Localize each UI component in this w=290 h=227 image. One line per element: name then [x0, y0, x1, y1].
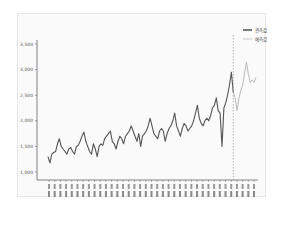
x-tick-label	[219, 184, 221, 189]
x-tick-label	[156, 184, 158, 189]
y-tick-label: 1,000	[20, 170, 33, 175]
x-tick-label	[76, 184, 78, 189]
x-tick-label	[247, 191, 249, 197]
forecast-line	[233, 62, 256, 111]
x-tick-label	[99, 184, 101, 189]
legend-label: 예측값	[255, 36, 267, 43]
x-tick-label	[156, 191, 158, 197]
x-tick-label	[207, 184, 209, 189]
x-tick-label	[105, 191, 107, 197]
y-tick-label: 3,000	[20, 67, 33, 72]
x-tick-label	[162, 184, 164, 189]
y-tick-label: 2,000	[20, 118, 33, 123]
x-tick-label	[236, 184, 238, 189]
x-tick-label	[179, 184, 181, 189]
x-tick-label	[94, 184, 96, 189]
plot-lines	[48, 35, 256, 180]
y-tick-label: 1,500	[20, 144, 33, 149]
x-tick-label	[122, 184, 124, 189]
x-tick-label	[99, 191, 101, 197]
observed-line	[48, 72, 233, 163]
x-tick-label	[59, 191, 61, 197]
x-tick-label	[54, 191, 56, 197]
x-tick-label	[173, 184, 175, 189]
x-tick-label	[202, 191, 204, 197]
x-tick-label	[145, 184, 147, 189]
x-tick-label	[82, 184, 84, 189]
x-tick-label	[162, 191, 164, 197]
y-axis: 1,0001,5002,0002,5003,0003,500	[20, 40, 37, 180]
x-tick-label	[225, 184, 227, 189]
x-tick-label	[202, 184, 204, 189]
x-tick-label	[105, 184, 107, 189]
x-tick-label	[168, 191, 170, 197]
x-tick-label	[185, 191, 187, 197]
x-tick-label	[116, 184, 118, 189]
x-tick-label	[48, 184, 50, 189]
x-tick-label	[54, 184, 56, 189]
x-tick-label	[133, 191, 135, 197]
x-tick-label	[82, 191, 84, 197]
x-tick-label	[236, 191, 238, 197]
x-tick-label	[230, 191, 232, 197]
x-tick-label	[207, 191, 209, 197]
x-tick-label	[242, 184, 244, 189]
x-axis	[37, 180, 258, 197]
x-tick-label	[151, 191, 153, 197]
x-tick-label	[88, 191, 90, 197]
x-tick-label	[88, 184, 90, 189]
x-tick-label	[213, 184, 215, 189]
x-tick-label	[253, 184, 255, 189]
x-tick-label	[225, 191, 227, 197]
x-tick-label	[111, 184, 113, 189]
x-tick-label	[128, 184, 130, 189]
x-tick-label	[185, 184, 187, 189]
x-tick-label	[139, 191, 141, 197]
x-tick-label	[230, 184, 232, 189]
x-tick-label	[71, 191, 73, 197]
x-tick-label	[151, 184, 153, 189]
x-tick-label	[76, 191, 78, 197]
legend: 관측값예측값	[243, 27, 267, 43]
x-tick-label	[139, 184, 141, 189]
x-tick-label	[128, 191, 130, 197]
x-tick-label	[253, 191, 255, 197]
x-tick-label	[71, 184, 73, 189]
x-tick-label	[122, 191, 124, 197]
x-tick-label	[133, 184, 135, 189]
x-tick-label	[173, 191, 175, 197]
x-tick-label	[94, 191, 96, 197]
x-tick-label	[196, 191, 198, 197]
x-tick-label	[65, 191, 67, 197]
legend-label: 관측값	[255, 27, 267, 34]
line-chart: 1,0001,5002,0002,5003,0003,500 관측값예측값	[0, 0, 290, 227]
x-tick-label	[168, 184, 170, 189]
y-tick-label: 2,500	[20, 93, 33, 98]
x-tick-label	[116, 191, 118, 197]
x-tick-label	[242, 191, 244, 197]
x-tick-label	[179, 191, 181, 197]
x-tick-label	[111, 191, 113, 197]
x-tick-label	[59, 184, 61, 189]
x-tick-label	[65, 184, 67, 189]
x-tick-label	[247, 184, 249, 189]
x-tick-label	[145, 191, 147, 197]
x-tick-label	[190, 184, 192, 189]
x-tick-label	[48, 191, 50, 197]
x-tick-label	[196, 184, 198, 189]
y-tick-label: 3,500	[20, 42, 33, 47]
x-tick-label	[219, 191, 221, 197]
x-tick-label	[190, 191, 192, 197]
x-tick-label	[213, 191, 215, 197]
